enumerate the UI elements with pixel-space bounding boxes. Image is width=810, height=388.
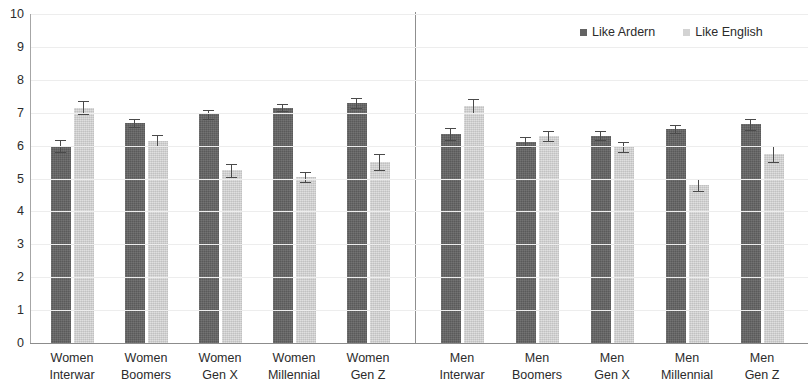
y-tick-label: 2 — [17, 271, 24, 283]
error-bar-cap — [595, 131, 606, 132]
chart-legend: Like Ardern Like English — [580, 25, 763, 39]
error-bar — [600, 131, 601, 140]
error-bar-cap — [203, 110, 214, 111]
error-bar-cap — [226, 177, 237, 178]
error-bar-cap — [520, 137, 531, 138]
error-bar-cap — [745, 130, 756, 131]
x-axis-labels: WomenInterwarWomenBoomersWomenGen XWomen… — [30, 350, 808, 388]
y-tick-label: 9 — [17, 41, 24, 53]
error-bar-cap — [78, 114, 89, 115]
bar-like-ardern — [347, 103, 367, 343]
bar-like-english — [222, 170, 242, 343]
error-bar — [473, 99, 474, 113]
error-bar-cap — [129, 127, 140, 128]
error-bar — [773, 146, 774, 162]
bar-like-english — [464, 106, 484, 343]
error-bar-cap — [693, 191, 704, 192]
error-bar-cap — [300, 172, 311, 173]
bar-like-ardern — [591, 136, 611, 343]
error-bar-cap — [152, 135, 163, 136]
error-bar — [379, 154, 380, 170]
x-axis-category-label: WomenGen Z — [322, 350, 414, 384]
legend-swatch-icon-like-ardern — [580, 29, 587, 36]
error-bar-cap — [55, 152, 66, 153]
bar-like-ardern — [441, 134, 461, 343]
bar-like-ardern — [516, 142, 536, 343]
bar-like-english — [296, 177, 316, 343]
bar-like-english — [370, 162, 390, 343]
y-tick-label: 6 — [17, 140, 24, 152]
y-tick-label: 8 — [17, 74, 24, 86]
error-bar — [623, 142, 624, 152]
error-bar — [548, 131, 549, 141]
bar-like-english — [614, 147, 634, 343]
x-axis-category-label: MenGen Z — [716, 350, 808, 384]
error-bar — [134, 119, 135, 127]
bar-like-english — [689, 185, 709, 343]
y-tick-label: 5 — [17, 173, 24, 185]
bar-chart: 109876543210 WomenInterwarWomenBoomersWo… — [0, 0, 810, 388]
error-bar-cap — [351, 108, 362, 109]
error-bar — [356, 98, 357, 108]
error-bar-cap — [445, 128, 456, 129]
error-bar-cap — [670, 133, 681, 134]
bar-like-ardern — [199, 114, 219, 343]
y-tick-label: 4 — [17, 205, 24, 217]
y-tick-label: 7 — [17, 107, 24, 119]
error-bar-cap — [670, 125, 681, 126]
error-bar-cap — [520, 147, 531, 148]
gridline — [31, 113, 808, 114]
y-tick-label: 0 — [17, 337, 24, 349]
legend-swatch-icon-like-english — [683, 29, 690, 36]
x-axis-label-line: Gen Z — [716, 367, 808, 384]
error-bar-cap — [618, 142, 629, 143]
y-tick-label: 1 — [17, 304, 24, 316]
error-bar-cap — [543, 131, 554, 132]
error-bar-cap — [374, 154, 385, 155]
gridline — [31, 47, 808, 48]
legend-item-like-english: Like English — [683, 25, 762, 39]
x-axis-label-line: Gen Z — [322, 367, 414, 384]
x-axis-label-line: Women — [322, 350, 414, 367]
error-bar-cap — [445, 140, 456, 141]
gridline — [31, 277, 808, 278]
gridline — [31, 80, 808, 81]
bar-like-english — [764, 154, 784, 343]
gridline — [31, 310, 808, 311]
error-bar-cap — [374, 170, 385, 171]
error-bar — [698, 179, 699, 191]
y-tick-label: 10 — [10, 8, 24, 20]
gridline — [31, 179, 808, 180]
gridline — [31, 244, 808, 245]
error-bar-cap — [277, 104, 288, 105]
x-axis-line — [30, 343, 808, 344]
bar-like-ardern — [273, 108, 293, 343]
error-bar-cap — [351, 98, 362, 99]
error-bar-cap — [78, 101, 89, 102]
error-bar-cap — [277, 111, 288, 112]
error-bar-cap — [543, 141, 554, 142]
error-bar — [157, 135, 158, 146]
y-tick-label: 3 — [17, 238, 24, 250]
error-bar-cap — [129, 119, 140, 120]
error-bar-cap — [300, 182, 311, 183]
gridline — [31, 211, 808, 212]
x-axis-label-line: Men — [716, 350, 808, 367]
legend-item-like-ardern: Like Ardern — [580, 25, 655, 39]
error-bar-cap — [745, 119, 756, 120]
error-bar-cap — [768, 162, 779, 163]
error-bar-cap — [468, 99, 479, 100]
error-bar-cap — [226, 164, 237, 165]
gridline — [31, 146, 808, 147]
error-bar — [450, 128, 451, 139]
gridline — [31, 14, 808, 15]
bar-like-english — [74, 108, 94, 343]
error-bar-cap — [55, 140, 66, 141]
bar-like-english — [148, 141, 168, 343]
bar-like-english — [539, 136, 559, 343]
y-axis: 109876543210 — [0, 0, 28, 388]
error-bar — [750, 119, 751, 130]
error-bar — [305, 172, 306, 182]
error-bar-cap — [595, 140, 606, 141]
legend-label-like-ardern: Like Ardern — [592, 25, 655, 39]
